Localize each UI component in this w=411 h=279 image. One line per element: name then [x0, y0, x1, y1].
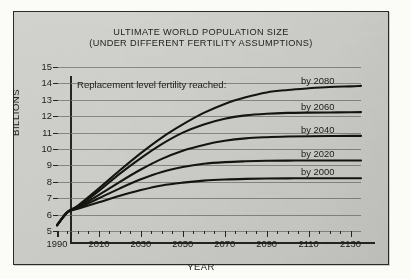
curve-label-by-2060: by 2060	[301, 101, 334, 112]
curves-group	[14, 12, 388, 264]
annotation-replacement-fertility: Replacement level fertility reached:	[74, 78, 229, 91]
curve-label-by-2020: by 2020	[301, 148, 334, 159]
chart-screenshot: ULTIMATE WORLD POPULATION SIZE (UNDER DI…	[0, 0, 411, 279]
curve-label-by-2000: by 2000	[301, 166, 334, 177]
chart-card: ULTIMATE WORLD POPULATION SIZE (UNDER DI…	[13, 11, 389, 265]
x-axis-title: YEAR	[14, 261, 388, 272]
curve-label-by-2040: by 2040	[301, 124, 334, 135]
curve-label-by-2080: by 2080	[301, 75, 334, 86]
